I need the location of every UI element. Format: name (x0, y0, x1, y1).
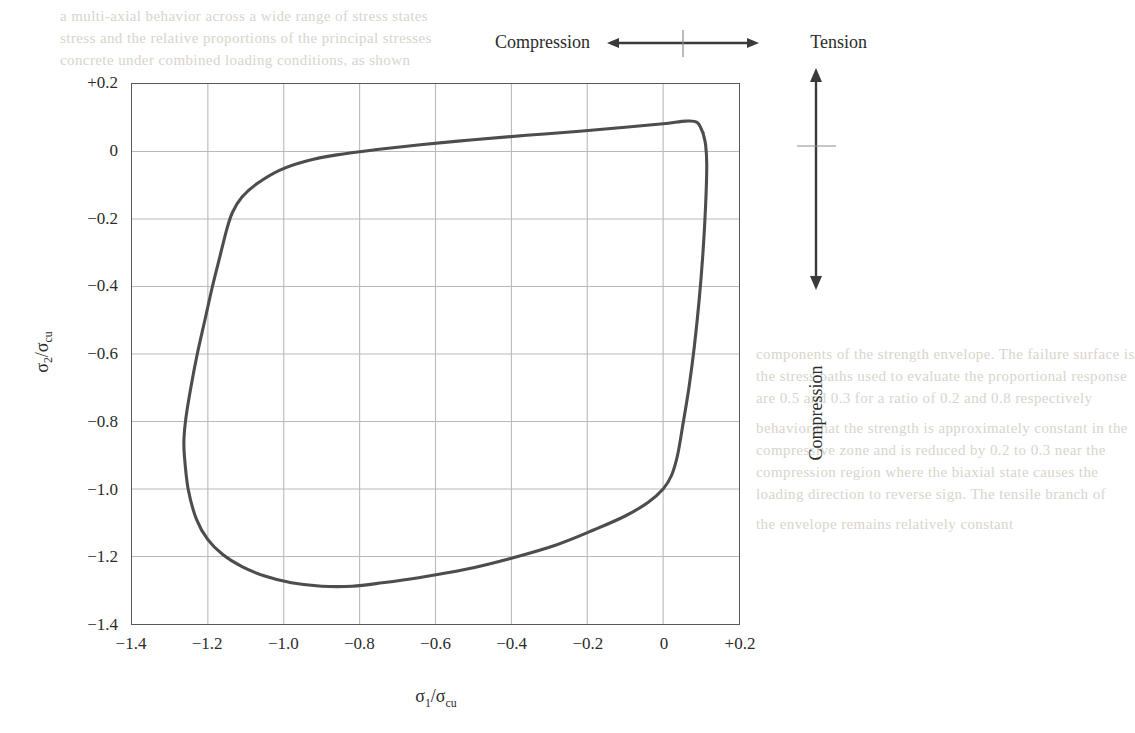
y-tick-label: 0 (46, 141, 118, 161)
double-headed-vertical-arrow-icon (786, 68, 846, 290)
y-tick-label: −0.4 (46, 276, 118, 296)
y-tick-label: −1.2 (46, 547, 118, 567)
y-tick-label: −0.2 (46, 209, 118, 229)
plot-area (131, 83, 740, 625)
x-tick-label: −1.4 (116, 634, 147, 654)
x-tick-label: −0.8 (344, 634, 375, 654)
double-headed-horizontal-arrow-icon (607, 30, 759, 64)
x-tick-label: −0.4 (496, 634, 527, 654)
x-tick-label: −0.6 (420, 634, 451, 654)
compression-label-horizontal: Compression (495, 32, 590, 53)
y-tick-label: +0.2 (46, 73, 118, 93)
horizontal-stress-sense-annotation: Compression Tension (495, 30, 867, 64)
y-tick-label: −0.8 (46, 412, 118, 432)
x-tick-label: −1.2 (192, 634, 223, 654)
x-tick-label: 0 (660, 634, 669, 654)
y-axis-title-text: σ2/σcu (32, 331, 52, 373)
x-tick-label: −1.0 (268, 634, 299, 654)
y-tick-label: −0.6 (46, 344, 118, 364)
x-axis-title-text: σ1/σcu (415, 686, 457, 706)
x-tick-label: +0.2 (725, 634, 756, 654)
tension-label-horizontal: Tension (810, 32, 867, 53)
y-axis-title: σ2/σcu (32, 331, 57, 373)
compression-label-vertical: Compression (806, 365, 827, 460)
y-tick-label: −1.4 (46, 615, 118, 635)
y-tick-label: −1.0 (46, 480, 118, 500)
x-axis-title: σ1/σcu (415, 686, 457, 711)
vertical-stress-sense-annotation: Compression (786, 68, 846, 548)
failure-envelope-curve (132, 84, 739, 624)
x-tick-label: −0.2 (572, 634, 603, 654)
